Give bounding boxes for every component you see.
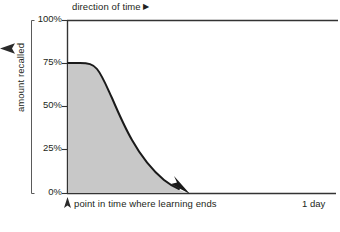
- one-day-caption: 1 day: [302, 198, 325, 209]
- y-axis-ticks: [62, 21, 67, 194]
- forgetting-curve-figure: direction of time▶ amount recalled 100% …: [0, 0, 340, 232]
- up-triangle-arrow-icon: [63, 197, 72, 209]
- forgetting-curve-area: [68, 63, 188, 193]
- axis-bracket: [32, 21, 35, 194]
- learning-ends-caption: point in time where learning ends: [74, 198, 217, 209]
